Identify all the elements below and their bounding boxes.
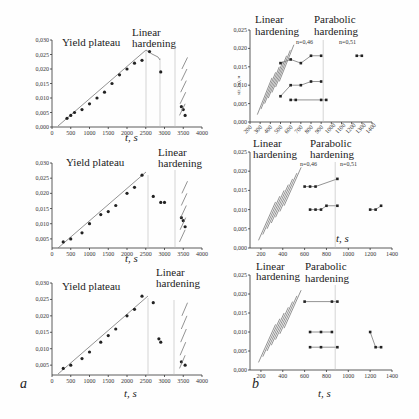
- data-point: [309, 208, 312, 211]
- x-tick-label: 600: [300, 251, 309, 257]
- x-tick-label: 2500: [140, 130, 152, 136]
- y-tick-label: 0,000: [234, 119, 248, 125]
- data-point: [80, 357, 83, 360]
- y-tick-label: 0,025: [234, 272, 248, 278]
- data-point: [133, 186, 136, 189]
- y-tick-label: 0,030: [36, 280, 50, 286]
- x-tick-label: 1500: [102, 251, 114, 257]
- annotation-parabolic: Parabolic: [314, 13, 356, 25]
- data-point: [88, 222, 91, 225]
- x-tick-label: 0: [51, 130, 54, 136]
- data-point: [303, 185, 306, 188]
- data-point: [336, 178, 339, 181]
- data-point: [80, 108, 83, 111]
- data-point: [309, 331, 312, 334]
- annotation-yield-plateau: Yield plateau: [66, 156, 125, 168]
- chart-a1: 0,0000,0050,0100,0150,0200,0250,03005001…: [36, 26, 209, 143]
- x-tick-label: 1400: [386, 251, 398, 257]
- data-point: [300, 62, 303, 65]
- chart-b2: 0,0000,0050,0100,0150,0200,0252004006008…: [234, 137, 399, 257]
- x-tick-label: 1300: [354, 122, 367, 135]
- x-tick-label: 1400: [386, 373, 398, 379]
- data-point: [289, 58, 292, 61]
- x-tick-label: 0: [51, 378, 54, 384]
- data-point: [69, 237, 72, 240]
- panel-label-a: a: [20, 376, 27, 391]
- x-axis-label: t, s: [124, 387, 137, 399]
- data-point: [325, 99, 328, 102]
- data-point: [114, 327, 117, 330]
- x-tick-label: 800: [322, 251, 331, 257]
- data-point: [294, 99, 297, 102]
- data-point: [336, 300, 339, 303]
- chart-a3: 0,0050,0100,0150,0200,0250,0300500100015…: [20, 266, 208, 399]
- y-tick-label: 0,015: [36, 329, 50, 335]
- data-point: [289, 99, 292, 102]
- data-point: [309, 185, 312, 188]
- y-tick-label: 0,020: [36, 66, 50, 72]
- data-point: [62, 240, 65, 243]
- data-point: [300, 84, 303, 87]
- x-tick-label: 500: [66, 251, 75, 257]
- y-tick-label: 0,010: [36, 95, 50, 101]
- data-point: [80, 231, 83, 234]
- x-tick-label: 1200: [344, 122, 357, 135]
- data-point: [380, 346, 383, 349]
- y-tick-label: 0,020: [234, 45, 248, 51]
- x-tick-label: 600: [300, 373, 309, 379]
- y-tick-label: 0,015: [234, 187, 248, 193]
- data-point: [107, 334, 110, 337]
- data-point: [310, 54, 313, 57]
- data-point: [69, 114, 72, 117]
- data-point: [180, 105, 183, 108]
- annotation-yield-plateau: Yield plateau: [62, 36, 121, 48]
- data-point: [184, 114, 187, 117]
- x-axis-label: t, s: [318, 387, 331, 399]
- data-point: [125, 192, 128, 195]
- y-tick-label: 0,020: [234, 291, 248, 297]
- data-point: [184, 225, 187, 228]
- data-point: [374, 208, 377, 211]
- x-tick-label: 1000: [342, 251, 354, 257]
- data-point: [309, 346, 312, 349]
- data-point: [336, 346, 339, 349]
- y-tick-label: 0,015: [234, 64, 248, 70]
- annotation-n2: n=0,51: [340, 161, 357, 167]
- data-point: [314, 208, 317, 211]
- annotation-hardening-2: hardening: [314, 25, 358, 37]
- data-point: [99, 341, 102, 344]
- y-tick-label: 0,020: [36, 190, 50, 196]
- x-tick-label: 500: [273, 124, 284, 135]
- data-point: [320, 208, 323, 211]
- x-tick-label: 400: [278, 373, 287, 379]
- series-line: [281, 82, 322, 97]
- annotation-n2: n=0,51: [339, 39, 356, 45]
- data-point: [133, 308, 136, 311]
- y-tick-label: 0,005: [36, 236, 50, 242]
- x-axis-label: t, s: [125, 252, 138, 264]
- y-tick-label: 0,010: [234, 207, 248, 213]
- y-tick-label: 0,000: [234, 245, 248, 251]
- data-point: [159, 201, 162, 204]
- data-point: [140, 295, 143, 298]
- data-point: [125, 314, 128, 317]
- y-tick-label: 0,020: [36, 313, 50, 319]
- data-point: [320, 99, 323, 102]
- data-point: [99, 213, 102, 216]
- x-tick-label: 4000: [196, 378, 208, 384]
- x-tick-label: 1000: [342, 373, 354, 379]
- x-tick-label: 700: [293, 124, 304, 135]
- y-tick-label: 0,015: [36, 206, 50, 212]
- x-tick-label: 900: [314, 124, 325, 135]
- panel-label-b: b: [252, 376, 259, 391]
- data-point: [88, 350, 91, 353]
- data-point: [133, 62, 136, 65]
- y-tick-label: 0,015: [234, 310, 248, 316]
- x-tick-label: 3500: [177, 251, 189, 257]
- y-tick-label: 0,005: [234, 348, 248, 354]
- annotation-hardening: hardening: [255, 25, 299, 37]
- y-tick-label: 0,020: [234, 168, 248, 174]
- x-tick-label: 500: [66, 378, 75, 384]
- data-point: [152, 195, 155, 198]
- x-tick-label: 500: [66, 130, 75, 136]
